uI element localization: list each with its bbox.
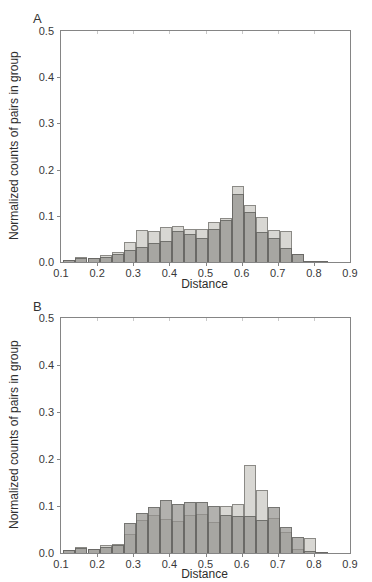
x-axis-tick	[169, 553, 170, 557]
histogram-bar-dark	[292, 254, 304, 262]
histogram-bar-dark	[316, 261, 328, 262]
panel-b-x-axis-label: Distance	[60, 567, 349, 581]
histogram-bar-dark	[100, 547, 112, 553]
x-axis-tick	[97, 553, 98, 557]
x-axis-top-tick	[314, 31, 315, 34]
x-axis-tick	[314, 553, 315, 557]
panel-a-y-axis-label: Normalized counts of pairs in group	[3, 30, 25, 261]
x-axis-tick	[206, 262, 207, 266]
x-axis-top-tick	[133, 31, 134, 34]
histogram-bar-dark	[196, 502, 208, 553]
panel-b: B Normalized counts of pairs in group 0.…	[0, 291, 372, 582]
histogram-bar-dark	[268, 238, 280, 262]
x-axis-tick	[242, 553, 243, 557]
x-axis-tick	[97, 262, 98, 266]
x-axis-tick	[314, 262, 315, 266]
histogram-bar-dark	[124, 523, 136, 553]
histogram-bar-dark	[208, 506, 220, 553]
histogram-bar-dark	[75, 548, 87, 553]
y-axis-tick	[57, 123, 61, 124]
x-axis-tick	[133, 262, 134, 266]
histogram-bar-dark	[63, 550, 75, 553]
histogram-bar-dark	[304, 551, 316, 553]
histogram-bar-dark	[148, 507, 160, 553]
histogram-bar-dark	[160, 241, 172, 262]
histogram-bar-dark	[220, 515, 232, 553]
histogram-bar-dark	[280, 248, 292, 262]
histogram-bar-dark	[220, 220, 232, 262]
histogram-bar-dark	[316, 552, 328, 553]
x-axis-top-tick	[206, 31, 207, 34]
x-axis-top-tick	[169, 31, 170, 34]
x-axis-top-tick	[169, 318, 170, 321]
histogram-bar-dark	[208, 229, 220, 262]
x-axis-tick	[242, 262, 243, 266]
panel-a: A Normalized counts of pairs in group 0.…	[0, 0, 372, 291]
histogram-bar-dark	[172, 504, 184, 553]
histogram-bar-dark	[232, 516, 244, 553]
histogram-bar-dark	[63, 260, 75, 262]
histogram-bar-dark	[160, 500, 172, 553]
y-axis-tick	[57, 216, 61, 217]
x-axis-top-tick	[97, 31, 98, 34]
x-axis-top-tick	[206, 318, 207, 321]
histogram-bar-dark	[280, 527, 292, 553]
x-axis-tick	[169, 262, 170, 266]
histogram-bar-dark	[88, 258, 100, 262]
y-axis-tick-label: 0.3	[39, 117, 54, 129]
histogram-bar-dark	[256, 520, 268, 553]
panel-a-letter: A	[33, 11, 42, 26]
y-axis-tick-label: 0.3	[39, 406, 54, 418]
histogram-bar-dark	[100, 257, 112, 262]
y-axis-tick	[57, 170, 61, 171]
y-axis-tick	[57, 412, 61, 413]
histogram-bar-dark	[184, 502, 196, 553]
y-axis-tick-label: 0.4	[39, 359, 54, 371]
y-axis-tick	[57, 77, 61, 78]
histogram-bar-dark	[232, 194, 244, 262]
y-axis-tick-label: 0.1	[39, 210, 54, 222]
y-axis-tick-label: 0.0	[39, 256, 54, 268]
histogram-bar-dark	[196, 238, 208, 262]
histogram-bar-dark	[244, 516, 256, 553]
x-axis-top-tick	[97, 318, 98, 321]
x-axis-tick	[206, 553, 207, 557]
histogram-bar-dark	[112, 545, 124, 553]
histogram-bar-dark	[136, 247, 148, 262]
x-axis-tick	[278, 553, 279, 557]
x-axis-top-tick	[314, 318, 315, 321]
x-axis-top-tick	[278, 31, 279, 34]
histogram-bar-dark	[292, 537, 304, 553]
panel-a-x-axis-label: Distance	[60, 277, 349, 291]
histogram-bar-dark	[184, 234, 196, 262]
y-axis-tick-label: 0.0	[39, 547, 54, 559]
x-axis-top-tick	[133, 318, 134, 321]
histogram-bar-dark	[136, 513, 148, 553]
y-axis-tick-label: 0.5	[39, 312, 54, 324]
histogram-bar-dark	[304, 261, 316, 262]
histogram-bar-dark	[172, 231, 184, 262]
y-axis-tick-label: 0.2	[39, 164, 54, 176]
y-axis-tick-label: 0.5	[39, 25, 54, 37]
x-axis-top-tick	[242, 31, 243, 34]
y-axis-tick-label: 0.4	[39, 71, 54, 83]
x-axis-tick	[133, 553, 134, 557]
histogram-bar-dark	[75, 258, 87, 262]
panel-b-plot-area: 0.10.20.30.40.50.60.70.80.90.00.10.20.30…	[60, 317, 351, 554]
histogram-bar-dark	[124, 250, 136, 262]
two-panel-histogram-figure: A Normalized counts of pairs in group 0.…	[0, 0, 372, 582]
y-axis-tick	[57, 365, 61, 366]
histogram-bar-dark	[268, 507, 280, 553]
histogram-bar-dark	[256, 232, 268, 262]
y-axis-tick-label: 0.2	[39, 453, 54, 465]
x-axis-tick	[278, 262, 279, 266]
y-axis-tick-label: 0.1	[39, 500, 54, 512]
panel-b-y-axis-label: Normalized counts of pairs in group	[3, 317, 25, 552]
panel-a-plot-area: 0.10.20.30.40.50.60.70.80.90.00.10.20.30…	[60, 30, 351, 263]
x-axis-top-tick	[242, 318, 243, 321]
histogram-bar-dark	[88, 549, 100, 553]
y-axis-tick	[57, 506, 61, 507]
y-axis-tick	[57, 459, 61, 460]
x-axis-top-tick	[278, 318, 279, 321]
histogram-bar-dark	[148, 243, 160, 262]
